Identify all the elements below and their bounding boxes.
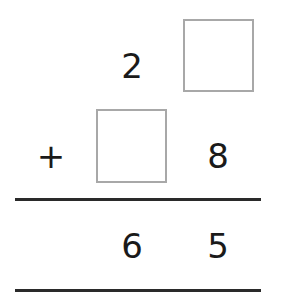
sum-rule-top bbox=[15, 198, 261, 201]
result-ones-digit: 5 bbox=[198, 226, 238, 266]
plus-operator: + bbox=[31, 136, 71, 176]
result-tens-digit: 6 bbox=[112, 226, 152, 266]
row2-ones-digit: 8 bbox=[198, 136, 238, 176]
row1-ones-answer-box[interactable] bbox=[183, 19, 254, 92]
sum-rule-bottom bbox=[15, 289, 261, 292]
row2-tens-answer-box[interactable] bbox=[96, 109, 167, 183]
row1-tens-digit: 2 bbox=[112, 46, 152, 86]
